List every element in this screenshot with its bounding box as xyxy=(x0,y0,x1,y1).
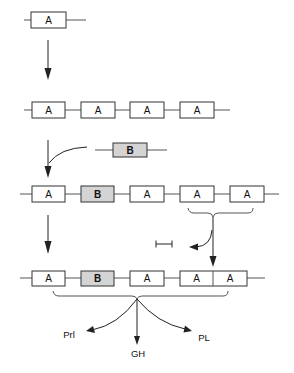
gene-label: A xyxy=(45,273,52,284)
gene-label: A xyxy=(194,189,201,200)
product-label-prl: Prl xyxy=(63,329,75,340)
excision-arrowhead xyxy=(189,244,198,251)
row-3-genes-with-insert: A B A A A xyxy=(20,186,279,202)
gene-label: B xyxy=(94,189,101,200)
down-arrow-1 xyxy=(45,40,52,80)
insertion-arc xyxy=(49,147,87,163)
arrowhead-prl xyxy=(86,326,95,333)
product-label-gh: GH xyxy=(131,348,145,359)
gene-label: A xyxy=(227,273,234,284)
row-1-ancestral-gene: A xyxy=(24,12,86,28)
gene-label: A xyxy=(244,189,251,200)
arrowhead-gh xyxy=(134,336,140,345)
gene-label: A xyxy=(144,273,151,284)
gene-label: A xyxy=(45,189,52,200)
gene-label: A xyxy=(95,105,102,116)
product-label-pl: PL xyxy=(198,332,210,343)
cluster-bracket xyxy=(53,291,228,299)
fusion-arrowhead xyxy=(210,256,217,267)
gene-label: A xyxy=(193,273,200,284)
gene-label: B xyxy=(94,273,101,284)
arrow-to-prl xyxy=(92,299,137,330)
down-arrow-3 xyxy=(45,215,52,254)
inserted-gene-b: B xyxy=(95,143,167,157)
gene-label: A xyxy=(45,105,52,116)
row-2-duplicated-genes: A A A A xyxy=(24,102,230,118)
deletion-symbol xyxy=(156,241,172,248)
gene-label: B xyxy=(126,145,133,156)
arrow-to-pl xyxy=(137,299,185,329)
deletion-bracket xyxy=(188,208,253,217)
row-4-final-cluster: A B A A A xyxy=(20,271,265,286)
gene-label: A xyxy=(45,15,52,26)
gene-evolution-diagram: A A A A A B A B A A A xyxy=(0,0,294,373)
excision-arc xyxy=(196,230,212,247)
gene-label: A xyxy=(144,189,151,200)
arrowhead-pl xyxy=(184,326,193,333)
gene-label: A xyxy=(144,105,151,116)
down-arrow-2 xyxy=(45,140,52,178)
gene-label: A xyxy=(194,105,201,116)
